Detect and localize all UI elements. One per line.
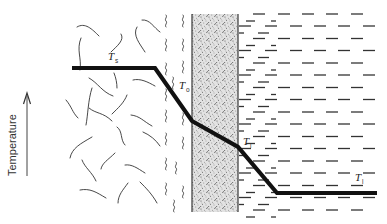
squiggle [140, 182, 157, 203]
squiggle [77, 25, 99, 36]
squiggle [131, 115, 152, 126]
squiggle [133, 79, 155, 86]
label-subscript: s [115, 57, 119, 64]
solid-wall [192, 14, 238, 212]
squiggle [70, 137, 92, 158]
wall-fill [192, 14, 238, 212]
label-Ts: T s [108, 50, 119, 64]
film-squiggle [175, 162, 176, 174]
squiggle [143, 132, 160, 146]
label-subscript: i [250, 142, 251, 149]
film-squiggle [182, 137, 183, 149]
film-squiggle [165, 15, 166, 27]
film-squiggle [165, 183, 166, 195]
squiggle [101, 153, 115, 169]
film-squiggle [173, 200, 174, 212]
squiggle [114, 73, 117, 88]
squiggle [117, 127, 125, 145]
temperature-axis: Temperature [6, 93, 31, 176]
film-squiggle [182, 61, 183, 73]
film-squiggle [182, 113, 183, 125]
label-symbol: T [355, 171, 362, 183]
squiggle [79, 38, 81, 70]
gas-bulk-region [66, 20, 160, 203]
squiggle [86, 88, 92, 125]
label-symbol: T [108, 50, 115, 62]
label-symbol: T [179, 79, 186, 91]
label-Ti: T i [243, 135, 251, 149]
gas-film-region [165, 15, 183, 212]
squiggle [82, 160, 96, 181]
label-Tl: T l [355, 171, 364, 185]
film-squiggle [182, 39, 183, 51]
liquid-region [239, 14, 375, 217]
squiggle [66, 100, 78, 118]
film-squiggle [165, 158, 166, 170]
temperature-profile-diagram: Temperature [0, 0, 387, 224]
film-squiggle [165, 110, 166, 122]
squiggle [125, 165, 145, 173]
film-squiggle [172, 77, 173, 89]
squiggle [118, 183, 128, 203]
squiggle [89, 108, 112, 121]
film-squiggle [182, 15, 183, 27]
label-To: T o [179, 79, 190, 93]
label-subscript: l [362, 178, 364, 185]
squiggle [135, 27, 145, 52]
squiggle [142, 20, 160, 32]
film-squiggle [165, 89, 166, 101]
axis-label: Temperature [6, 114, 18, 176]
squiggle [89, 78, 113, 96]
film-squiggle [165, 133, 166, 145]
film-squiggle [165, 63, 166, 75]
label-subscript: o [186, 86, 190, 93]
film-squiggle [165, 39, 166, 51]
squiggle [80, 189, 106, 198]
film-squiggle [182, 186, 183, 198]
label-symbol: T [243, 135, 250, 147]
squiggle [112, 95, 127, 114]
